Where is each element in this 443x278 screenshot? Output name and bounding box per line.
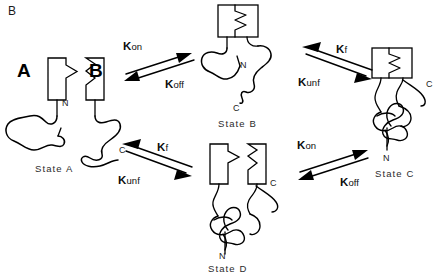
rate-a-to-d-reverse-sub: unf — [126, 175, 140, 186]
state-b-structure — [200, 0, 310, 125]
rate-b-to-c-forward-sub: f — [344, 44, 347, 55]
state-c-c-terminus-label: C — [426, 79, 433, 89]
reaction-d-to-c-arrows — [296, 146, 374, 184]
rate-a-to-b-reverse: Koff — [165, 78, 184, 90]
state-b-bound-domains-shape — [218, 5, 258, 37]
state-a-n-terminus-label: N — [62, 98, 69, 108]
rate-a-to-b-forward-sub: on — [131, 41, 142, 52]
state-d-structure — [190, 138, 300, 263]
state-b-caption: State B — [218, 118, 257, 129]
rate-b-to-c-reverse-sub: unf — [306, 77, 320, 88]
state-d-caption: State D — [208, 263, 247, 274]
rate-d-to-c-reverse-sub: off — [348, 177, 359, 188]
rate-d-to-c-reverse: Koff — [340, 176, 359, 188]
state-d-domain-a-shape — [210, 144, 239, 184]
state-d-domain-b-shape — [248, 144, 266, 184]
rate-b-to-c-reverse: Kunf — [298, 76, 320, 88]
rate-a-to-b-reverse-sub: off — [173, 79, 184, 90]
state-a-caption: State A — [35, 163, 73, 174]
state-a-domain-a-letter: A — [17, 60, 31, 82]
domain-a-shape — [48, 58, 77, 100]
rate-a-to-d-reverse: Kunf — [118, 174, 140, 186]
rate-d-to-c-forward-sub: on — [305, 140, 316, 151]
panel-label: B — [8, 4, 16, 18]
state-a-domain-b-letter: B — [89, 60, 103, 82]
state-c-n-terminus-label: N — [383, 153, 390, 163]
state-d-n-terminus-label: N — [219, 251, 226, 261]
rate-a-to-b-forward: Kon — [123, 40, 142, 52]
rate-a-to-d-forward-sub: f — [165, 142, 168, 153]
rate-d-to-c-forward: Kon — [297, 139, 316, 151]
state-b-c-terminus-label: C — [233, 103, 240, 113]
state-d-c-terminus-label: C — [270, 178, 277, 188]
state-b-n-terminus-label: N — [240, 60, 247, 70]
rate-a-to-d-forward: Kf — [157, 141, 168, 153]
figure-panel-b: B A B N C State A — [0, 0, 443, 278]
state-c-caption: State C — [375, 168, 414, 179]
reaction-a-to-b-arrows — [122, 48, 198, 84]
state-c-bound-domains-shape — [372, 48, 412, 78]
rate-b-to-c-forward: Kf — [336, 43, 347, 55]
